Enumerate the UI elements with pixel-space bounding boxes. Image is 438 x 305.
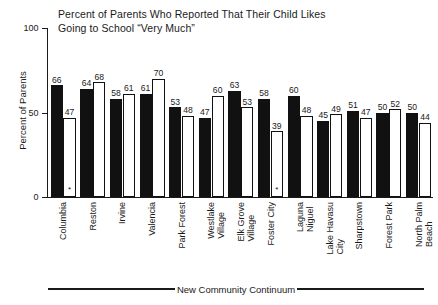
bar-group: 6647*	[51, 28, 76, 197]
x-category-label: Forest Park	[384, 202, 394, 249]
bar-dark: 63	[228, 91, 240, 197]
bar-dark: 60	[288, 96, 300, 197]
x-category-label: Lake Havasu City	[325, 202, 345, 255]
bar-value-label: 64	[82, 78, 92, 88]
bar-dark: 66	[51, 85, 63, 197]
bar-light: 53	[241, 107, 253, 197]
x-category-label: Westlake Village	[206, 202, 226, 239]
bar-group: 6170	[140, 28, 165, 197]
bar-value-label: 58	[259, 88, 269, 98]
x-axis-caption-label: New Community Continuum	[175, 284, 297, 295]
bar-dark: 45	[317, 121, 329, 197]
bar-value-label: 50	[378, 102, 388, 112]
x-category-label: Park Forest	[177, 202, 187, 249]
bar-group: 5044	[406, 28, 431, 197]
bar-value-label: 60	[289, 85, 299, 95]
bar-value-label: 39	[272, 121, 282, 131]
bar-light: 48	[300, 116, 312, 197]
bar-value-label: 52	[391, 99, 401, 109]
bar-value-label: 50	[407, 102, 417, 112]
x-category-label: Irvine	[117, 202, 127, 224]
bar-asterisk-marker: *	[275, 187, 278, 193]
bar-dark: 58	[110, 99, 122, 197]
caption-rule-right	[297, 288, 424, 289]
y-tick-label: 100	[23, 23, 38, 33]
bar-value-label: 70	[154, 68, 164, 78]
bar-light: 49	[330, 114, 342, 197]
bar-light: 44	[419, 123, 431, 197]
bar-value-label: 60	[213, 85, 223, 95]
bar-group: 5147	[347, 28, 372, 197]
bar-value-label: 48	[302, 105, 312, 115]
bar-group: 4760	[199, 28, 224, 197]
bar-light: 47*	[63, 118, 75, 197]
bar-group: 5052	[376, 28, 401, 197]
bar-value-label: 51	[348, 100, 358, 110]
bar-value-label: 68	[94, 72, 104, 82]
bar-value-label: 45	[319, 110, 329, 120]
bar-group: 6048	[288, 28, 313, 197]
bar-light: 48	[182, 116, 194, 197]
bar-light: 60	[212, 96, 224, 197]
x-category-label: Sharpstown	[354, 202, 364, 250]
bar-dark: 53	[169, 107, 181, 197]
bar-value-label: 63	[230, 80, 240, 90]
bar-light: 39*	[271, 131, 283, 197]
bar-value-label: 53	[242, 97, 252, 107]
bar-group: 4549	[317, 28, 342, 197]
bar-group: 6468	[80, 28, 105, 197]
bar-value-label: 47	[200, 107, 210, 117]
bar-light: 52	[389, 109, 401, 197]
caption-rule-left	[48, 288, 175, 289]
bar-value-label: 61	[124, 83, 134, 93]
x-category-label: Foster City	[266, 202, 276, 246]
bar-chart: Percent of Parents Who Reported That The…	[0, 0, 438, 305]
bar-dark: 58	[258, 99, 270, 197]
y-tick-mark	[42, 197, 48, 198]
bar-value-label: 47	[65, 107, 75, 117]
bar-group: 5861	[110, 28, 135, 197]
y-tick-mark	[42, 28, 48, 29]
bar-light: 61	[123, 94, 135, 197]
plot-area: 6647*6468586161705348476063535839*604845…	[48, 28, 433, 197]
x-axis-line	[48, 197, 433, 198]
x-category-label: Reston	[88, 202, 98, 231]
bar-value-label: 61	[141, 83, 151, 93]
bar-dark: 51	[347, 111, 359, 197]
bar-value-label: 47	[361, 107, 371, 117]
bar-dark: 61	[140, 94, 152, 197]
x-category-label: Columbia	[58, 202, 68, 240]
bar-dark: 50	[406, 113, 418, 198]
bar-value-label: 58	[111, 88, 121, 98]
y-axis-label: Percent of Parents	[17, 63, 28, 159]
bar-value-label: 49	[331, 104, 341, 114]
y-tick-mark	[42, 113, 48, 114]
bar-dark: 50	[376, 113, 388, 198]
bar-value-label: 53	[170, 97, 180, 107]
bar-group: 6353	[228, 28, 253, 197]
bar-group: 5348	[169, 28, 194, 197]
bar-value-label: 44	[420, 112, 430, 122]
bar-group: 5839*	[258, 28, 283, 197]
bar-dark: 47	[199, 118, 211, 197]
bar-asterisk-marker: *	[68, 187, 71, 193]
x-category-label: Valencia	[147, 202, 157, 236]
x-axis-caption: New Community Continuum	[0, 283, 438, 295]
chart-title-line-1: Percent of Parents Who Reported That The…	[58, 7, 388, 21]
bar-light: 70	[152, 79, 164, 197]
x-category-label: North Palm Beach	[414, 202, 434, 247]
bar-value-label: 66	[52, 75, 62, 85]
y-tick-label: 0	[33, 192, 38, 202]
bar-light: 47	[360, 118, 372, 197]
bar-light: 68	[93, 82, 105, 197]
bar-dark: 64	[80, 89, 92, 197]
y-tick-label: 50	[28, 108, 38, 118]
bar-value-label: 48	[183, 105, 193, 115]
x-category-label: Laguna Niguel	[295, 202, 315, 232]
x-category-label: Elk Grove Village	[236, 202, 256, 242]
